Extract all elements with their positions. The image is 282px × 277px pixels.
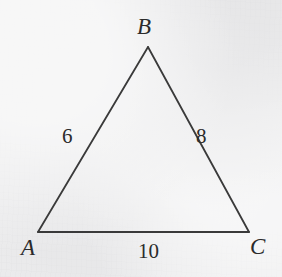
vertex-label-b: B: [137, 15, 151, 38]
geometry-figure: B A C 6 8 10: [0, 0, 282, 277]
side-length-label-bc: 8: [196, 126, 207, 147]
side-length-label-ac: 10: [138, 241, 159, 262]
vertex-label-c: C: [250, 235, 265, 258]
vertex-label-a: A: [21, 236, 35, 259]
triangle-shape: [0, 0, 282, 277]
side-ab-line: [38, 47, 148, 232]
side-length-label-ab: 6: [62, 126, 73, 147]
